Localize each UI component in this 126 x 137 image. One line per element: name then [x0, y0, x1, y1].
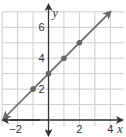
data-point: [46, 71, 52, 77]
x-tick-label: −2: [9, 123, 22, 135]
x-axis-label: x: [116, 122, 123, 136]
y-axis-label: y: [52, 6, 59, 20]
data-point: [77, 40, 83, 46]
coordinate-plane: −224246xy: [0, 0, 126, 137]
tick-labels: −224246xy: [9, 6, 123, 136]
x-tick-label: 2: [76, 123, 82, 135]
y-tick-label: 6: [38, 21, 44, 33]
y-tick-label: 2: [38, 83, 44, 95]
data-series: [4, 12, 111, 119]
data-point: [61, 55, 67, 61]
y-tick-label: 4: [38, 52, 44, 64]
axes: [3, 5, 122, 135]
grid: [2, 12, 124, 126]
x-tick-label: 4: [107, 123, 113, 135]
data-point: [30, 86, 36, 92]
